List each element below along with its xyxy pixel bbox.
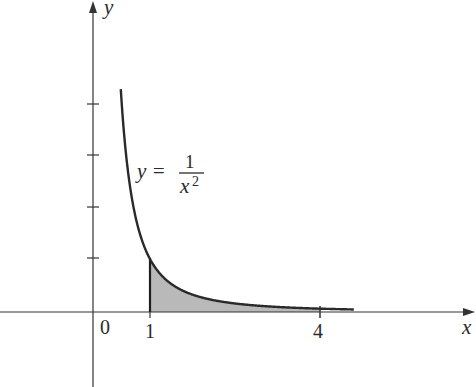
equation-lhs: y = <box>135 159 166 183</box>
origin-label: 0 <box>100 316 110 338</box>
equation-numerator: 1 <box>185 151 195 172</box>
equation-exponent: 2 <box>192 174 199 189</box>
equation-label: y = 1 x 2 <box>135 151 204 198</box>
y-axis-label: y <box>102 0 114 19</box>
x-tick-label-4: 4 <box>313 320 323 342</box>
x-tick-label-1: 1 <box>145 320 155 342</box>
equation-denominator: x <box>179 174 190 198</box>
x-axis-label: x <box>461 315 472 339</box>
y-axis-arrow-icon <box>89 1 97 13</box>
graph-canvas: y x 0 1 4 y = 1 x 2 <box>0 0 476 387</box>
